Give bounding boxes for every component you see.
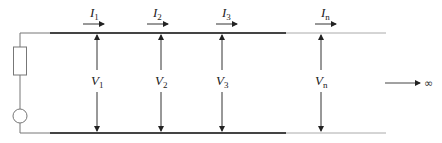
- current-label-1: I1: [89, 5, 99, 22]
- section-2: I2 V2: [147, 5, 168, 131]
- voltage-label-3: V3: [216, 73, 229, 90]
- resistor-icon: [14, 47, 27, 75]
- infinity-label: ∞: [424, 77, 433, 90]
- current-label-n: In: [320, 5, 330, 22]
- infinity-indicator: ∞: [385, 77, 433, 90]
- source-branch: [13, 33, 50, 133]
- current-label-2: I2: [152, 5, 162, 22]
- transmission-line-diagram: I1 V1 I2 V2 I3 V3 In Vn ∞: [0, 0, 442, 143]
- voltage-source-icon: [13, 109, 27, 123]
- current-label-3: I3: [221, 5, 231, 22]
- section-3: I3 V3: [216, 5, 237, 131]
- section-1: I1 V1: [83, 5, 104, 131]
- voltage-label-1: V1: [91, 73, 103, 90]
- section-n: In Vn: [315, 5, 336, 131]
- voltage-label-2: V2: [155, 73, 167, 90]
- voltage-label-n: Vn: [315, 73, 328, 90]
